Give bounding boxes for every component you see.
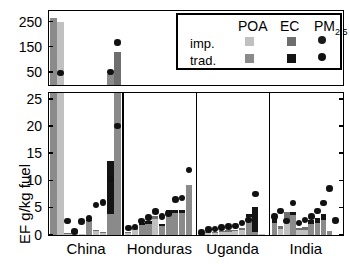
pm25-marker (205, 226, 212, 233)
bar-ec (302, 227, 308, 229)
y-tick-mark-right (339, 98, 344, 100)
bar-ec (239, 228, 245, 230)
bar-poa (205, 233, 211, 235)
legend-swatch (245, 54, 254, 63)
y-tick-mark-right (339, 180, 344, 182)
pm25-marker (308, 213, 315, 220)
pm25-marker (320, 200, 327, 207)
pm25-marker (290, 200, 297, 207)
y-tick-label: 10 (0, 172, 42, 188)
bar-poa (100, 232, 107, 235)
y-tick-mark-upper (48, 71, 53, 73)
x-axis-category-label: Honduras (127, 240, 192, 257)
y-tick-label: 25 (0, 91, 42, 107)
bar-upper-overflow (114, 52, 121, 85)
bar-poa (114, 92, 121, 235)
bar-ec (125, 232, 131, 233)
pm25-marker (314, 208, 321, 215)
pm25-marker (252, 191, 259, 198)
y-tick-label: 20 (0, 118, 42, 134)
legend-column-header: POA (238, 18, 268, 34)
bar-poa (79, 234, 86, 235)
bar-poa (278, 229, 284, 236)
pm25-marker (172, 196, 179, 203)
legend-column-header: PM2.5 (314, 18, 348, 37)
bar-poa (219, 232, 225, 235)
group-separator-upper (122, 11, 124, 85)
y-tick-mark (48, 98, 53, 100)
bar-poa (232, 231, 238, 235)
pm25-marker (218, 224, 225, 231)
chart-figure: EF g/kg fuel POAECPM2.5imp.trad. ChinaHo… (0, 0, 350, 273)
bar-poa (139, 225, 145, 235)
pm25-marker (179, 195, 186, 202)
bar-poa (321, 220, 327, 235)
bar-poa (50, 92, 57, 235)
bar-upper-overflow (107, 74, 114, 85)
bar-poa (225, 232, 231, 235)
pm25-marker (186, 167, 193, 174)
pm25-marker (145, 214, 152, 221)
pm25-marker (198, 229, 205, 236)
bar-ec (100, 232, 107, 233)
bar-ec (107, 161, 114, 214)
y-axis-label: EF g/kg fuel (16, 94, 34, 244)
bar-poa (152, 219, 158, 235)
bar-ec (296, 228, 302, 230)
bar-poa (179, 213, 185, 235)
bar-poa (296, 230, 302, 235)
legend-swatch (245, 37, 254, 46)
bar-poa (166, 215, 172, 235)
bar-poa (327, 231, 333, 235)
bar-ec (225, 230, 231, 232)
y-tick-mark-right (339, 234, 344, 236)
bar-poa (64, 234, 71, 235)
legend-row-label: imp. (190, 36, 215, 51)
pm25-marker (125, 225, 132, 232)
bar-ec (152, 216, 158, 219)
legend-row-label: trad. (190, 53, 216, 68)
bar-poa (308, 224, 314, 235)
x-axis-category-label: China (67, 240, 106, 257)
legend-swatch (287, 37, 296, 46)
y-tick-label: 0 (0, 227, 42, 243)
bar-poa (315, 223, 321, 235)
pm25-marker (64, 218, 71, 225)
pm25-marker (71, 228, 78, 235)
legend-marker-dot (318, 36, 326, 44)
pm25-marker (165, 210, 172, 217)
bar-poa (302, 230, 308, 235)
bar-ec (93, 230, 100, 231)
group-separator (196, 93, 198, 235)
pm25-marker (114, 123, 121, 130)
y-tick-label-upper: 150 (0, 39, 42, 55)
pm25-marker (245, 217, 252, 224)
bar-poa (212, 233, 218, 235)
bar-ec (315, 218, 321, 222)
lower-plot-area (49, 93, 343, 235)
pm25-marker (107, 176, 114, 183)
y-tick-label: 15 (0, 145, 42, 161)
legend-swatch (287, 54, 296, 63)
pm25-marker-upper (107, 69, 114, 76)
pm25-marker (78, 218, 85, 225)
bar-poa (57, 92, 64, 235)
bar-ec (219, 231, 225, 232)
bar-ec (308, 220, 314, 224)
pm25-marker (232, 223, 239, 230)
bar-poa (272, 223, 278, 235)
legend-content: POAECPM2.5imp.trad. (178, 15, 340, 68)
x-axis-category-label: Uganda (206, 240, 259, 257)
bar-ec (172, 210, 178, 214)
legend: POAECPM2.5imp.trad. (176, 13, 342, 70)
pm25-marker-upper (114, 39, 121, 46)
bar-poa (86, 221, 93, 235)
bar-poa (107, 214, 114, 235)
bar-poa (159, 226, 165, 235)
bar-ec (321, 214, 327, 220)
pm25-marker (326, 185, 333, 192)
pm25-marker (332, 217, 339, 224)
pm25-marker (239, 220, 246, 227)
bar-ec (64, 233, 71, 234)
bar-ec (290, 212, 296, 215)
